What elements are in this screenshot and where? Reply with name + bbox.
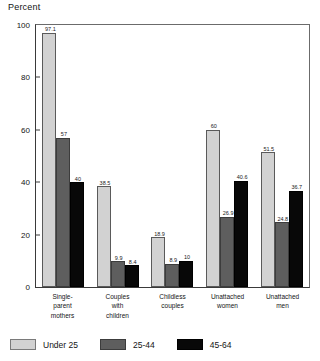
bar[interactable]: 24.8 [275,222,289,287]
x-axis-label: Coupleswithchildren [92,292,144,332]
bar-group: 38.59.98.4 [97,25,139,287]
bar[interactable]: 26.9 [220,217,234,287]
bar[interactable]: 57 [56,138,70,287]
bar[interactable]: 8.4 [125,265,139,287]
bar-value-label: 24.8 [277,217,288,223]
bar[interactable]: 40 [70,182,84,287]
bar-group: 51.524.836.7 [261,25,303,287]
bar-value-label: 18.9 [154,232,165,238]
chart-legend: Under 2525-4445-64 [10,339,253,350]
bar-value-label: 9.9 [115,256,123,262]
bar-group: 6026.940.6 [206,25,248,287]
bar-value-label: 40.6 [237,175,248,181]
bar-value-label: 8.9 [169,258,177,264]
bar-group: 97.15740 [42,25,84,287]
legend-swatch [100,339,126,350]
y-tick-label: 40 [21,178,36,187]
plot-area: 020406080100 97.1574038.59.98.418.98.910… [35,24,310,288]
bar[interactable]: 8.9 [165,264,179,287]
bar[interactable]: 18.9 [151,237,165,287]
bar-value-label: 26.9 [223,211,234,217]
bar[interactable]: 40.6 [234,181,248,287]
x-axis-label: Unattachedwomen [202,292,254,332]
bar-chart: Percent 020406080100 97.1574038.59.98.41… [0,0,320,361]
x-axis-label: Single-parentmothers [37,292,89,332]
bar-value-label: 36.7 [291,185,302,191]
x-axis-labels: Single-parentmothersCoupleswithchildrenC… [35,292,310,332]
y-tick-label: 100 [17,21,36,30]
y-tick-label: 60 [21,125,36,134]
bar-group: 18.98.910 [151,25,193,287]
bar[interactable]: 97.1 [42,33,56,287]
bar[interactable]: 60 [206,130,220,287]
bar[interactable]: 38.5 [97,186,111,287]
legend-item[interactable]: 25-44 [100,339,155,350]
legend-swatch [10,339,36,350]
x-axis-label: Unattachedmen [257,292,309,332]
legend-swatch [177,339,203,350]
bar-value-label: 60 [211,124,217,130]
bar-value-label: 38.5 [100,181,111,187]
bar-value-label: 8.4 [129,260,137,266]
legend-label: 45-64 [210,340,232,350]
x-axis-label: Childlesscouples [147,292,199,332]
legend-label: 25-44 [133,340,155,350]
bar-value-label: 97.1 [45,27,56,33]
legend-label: Under 25 [43,340,78,350]
bar-value-label: 10 [184,255,190,261]
bar-value-label: 51.5 [263,147,274,153]
y-tick-label: 0 [26,283,36,292]
bar[interactable]: 9.9 [111,261,125,287]
y-axis-title: Percent [8,2,40,12]
y-tick-label: 20 [21,230,36,239]
bar-value-label: 57 [61,132,67,138]
bar[interactable]: 36.7 [289,191,303,287]
bar-value-label: 40 [75,177,81,183]
legend-item[interactable]: Under 25 [10,339,78,350]
bar-groups: 97.1574038.59.98.418.98.9106026.940.651.… [36,25,309,287]
bar[interactable]: 51.5 [261,152,275,287]
bar[interactable]: 10 [179,261,193,287]
y-tick-label: 80 [21,73,36,82]
legend-item[interactable]: 45-64 [177,339,232,350]
